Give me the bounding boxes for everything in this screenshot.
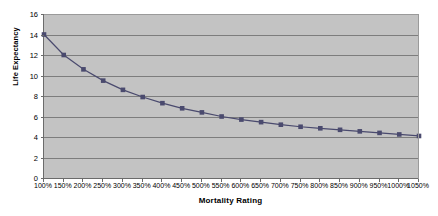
y-axis-tick-label: 10 [16,71,38,80]
data-point-marker [121,88,126,93]
x-axis-tick-mark [82,179,83,182]
y-axis-tick-mark [41,55,44,56]
x-axis-tick-mark [280,179,281,182]
data-point-marker [338,128,343,133]
data-point-marker [397,132,402,137]
data-point-marker [377,131,382,136]
x-axis-tick-mark [418,179,419,182]
data-point-marker [259,120,264,125]
x-axis-tick-mark [181,179,182,182]
x-axis-tick-mark [359,179,360,182]
series-line [44,35,419,136]
data-point-marker [298,124,303,129]
data-point-marker [81,67,86,72]
x-axis-tick-mark [319,179,320,182]
data-point-marker [61,53,66,58]
y-axis-tick-label: 14 [16,30,38,39]
y-axis-tick-mark [41,14,44,15]
y-axis-tick-mark [41,76,44,77]
y-axis-tick-mark [41,35,44,36]
data-point-marker [160,101,165,106]
data-point-marker [279,122,284,127]
plot-frame-right-border [418,14,419,179]
x-axis-tick-mark [201,179,202,182]
y-axis-tick-label: 4 [16,133,38,142]
data-point-marker [101,78,106,83]
x-axis-tick-mark [142,179,143,182]
y-axis-tick-mark [41,137,44,138]
y-axis-tick-label: 16 [16,10,38,19]
y-axis-tick-labels: 0246810121416 [16,14,38,178]
x-axis-tick-mark [240,179,241,182]
plot-frame-top-border [43,14,419,15]
x-axis-tick-mark [161,179,162,182]
x-axis-tick-mark [43,179,44,182]
data-point-marker [200,110,205,115]
y-axis-tick-mark [41,117,44,118]
x-axis-tick-mark [63,179,64,182]
plot-area [43,14,419,179]
x-axis-tick-labels: 100%150%200%250%300%350%400%450%500%550%… [0,182,438,194]
x-axis-tick-mark [260,179,261,182]
x-axis-tick-label: 1050% [398,182,438,189]
x-axis-tick-mark [398,179,399,182]
data-series-line-expectancy [44,14,419,178]
data-point-marker [318,126,323,131]
x-axis-tick-mark [379,179,380,182]
y-axis-tick-label: 12 [16,51,38,60]
data-point-marker [239,117,244,122]
y-axis-tick-label: 2 [16,153,38,162]
data-point-marker [140,95,145,100]
y-axis-tick-label: 8 [16,92,38,101]
chart-container: Life Expectancy 0246810121416 100%150%20… [0,0,438,216]
x-axis-tick-mark [122,179,123,182]
x-axis-tick-mark [102,179,103,182]
data-point-marker [180,106,185,111]
y-axis-tick-label: 6 [16,112,38,121]
data-point-marker [219,114,224,119]
x-axis-tick-mark [339,179,340,182]
data-point-marker [357,129,362,134]
y-axis-tick-mark [41,158,44,159]
x-axis-tick-mark [300,179,301,182]
x-axis-tick-mark [221,179,222,182]
y-axis-tick-mark [41,96,44,97]
x-axis-title: Mortality Rating [43,196,418,205]
